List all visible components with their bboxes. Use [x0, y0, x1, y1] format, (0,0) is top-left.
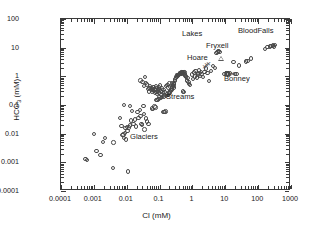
x-axis-title-main: Cl [142, 211, 150, 220]
tick-mark [61, 116, 64, 117]
data-point [142, 127, 146, 131]
data-point [218, 56, 224, 61]
tick-mark [61, 25, 64, 26]
tick-mark [61, 165, 64, 166]
x-tick-label: 1000 [282, 194, 298, 203]
tick-mark [284, 186, 285, 189]
tick-mark [61, 28, 64, 29]
tick-mark [220, 186, 221, 189]
tick-mark [87, 186, 88, 189]
y-axis-title: HCO3 (mM) [12, 45, 22, 155]
tick-mark [61, 169, 64, 170]
tick-mark [61, 142, 64, 143]
tick-mark [286, 169, 289, 170]
y-axis-title-unit: (mM) [12, 79, 21, 98]
tick-mark [183, 186, 184, 189]
tick-mark [286, 138, 289, 139]
tick-mark [286, 164, 289, 165]
tick-mark [61, 78, 64, 79]
data-point [207, 79, 211, 83]
tick-mark [77, 19, 78, 22]
tick-mark [117, 186, 118, 189]
tick-mark [286, 50, 289, 51]
y-tick-label: 0.0001 [0, 186, 19, 195]
tick-mark [218, 19, 219, 22]
tick-mark [61, 182, 64, 183]
plot-area [60, 18, 290, 190]
data-point [143, 75, 147, 79]
tick-mark [286, 19, 287, 22]
data-point [126, 169, 130, 173]
data-point [188, 83, 192, 87]
tick-mark [147, 19, 148, 22]
tick-mark [285, 48, 290, 49]
tick-mark [225, 19, 226, 24]
tick-mark [185, 186, 186, 189]
data-point [273, 43, 277, 47]
tick-mark [117, 19, 118, 22]
tick-mark [61, 19, 62, 24]
tick-mark [215, 19, 216, 22]
tick-mark [61, 149, 64, 150]
tick-mark [81, 186, 82, 189]
annotation-bonney: Bonney [224, 74, 250, 83]
data-point [111, 166, 115, 170]
tick-mark [61, 48, 66, 49]
data-point [101, 140, 105, 144]
tick-mark [127, 185, 128, 190]
tick-mark [286, 106, 289, 107]
tick-mark [61, 85, 64, 86]
tick-mark [286, 63, 289, 64]
data-point [163, 109, 167, 113]
tick-mark [61, 171, 64, 172]
tick-mark [286, 34, 289, 35]
tick-mark [286, 79, 289, 80]
tick-mark [61, 145, 64, 146]
tick-mark [258, 185, 259, 190]
tick-mark [61, 185, 62, 190]
x-tick-label: 10 [220, 194, 228, 203]
tick-mark [61, 34, 64, 35]
x-tick-label: 0.001 [84, 194, 102, 203]
tick-mark [61, 50, 64, 51]
tick-mark [286, 135, 289, 136]
tick-mark [61, 96, 64, 97]
tick-mark [84, 186, 85, 189]
tick-mark [291, 19, 292, 24]
tick-mark [286, 177, 289, 178]
data-point [213, 66, 217, 70]
tick-mark [147, 186, 148, 189]
tick-mark [281, 186, 282, 189]
tick-mark [253, 186, 254, 189]
tick-mark [286, 136, 289, 137]
tick-mark [137, 19, 138, 22]
y-axis-title-subscript: 3 [16, 100, 22, 103]
tick-mark [202, 19, 203, 22]
tick-mark [61, 54, 64, 55]
tick-mark [286, 109, 289, 110]
tick-mark [286, 145, 289, 146]
tick-mark [94, 185, 95, 190]
tick-mark [248, 19, 249, 22]
tick-mark [286, 56, 289, 57]
tick-mark [225, 185, 226, 190]
x-tick-label: 0.1 [154, 194, 164, 203]
tick-mark [286, 39, 289, 40]
tick-mark [281, 19, 282, 22]
data-point [134, 124, 138, 128]
tick-mark [87, 19, 88, 22]
annotation-glaciers: Glaciers [130, 132, 158, 141]
tick-mark [61, 134, 66, 135]
tick-mark [286, 52, 289, 53]
tick-mark [104, 19, 105, 22]
tick-mark [61, 106, 64, 107]
tick-mark [285, 134, 290, 135]
tick-mark [61, 162, 66, 163]
tick-mark [150, 186, 151, 189]
tick-mark [286, 171, 289, 172]
tick-mark [285, 76, 290, 77]
data-point [209, 69, 213, 73]
tick-mark [61, 83, 64, 84]
data-point [103, 136, 107, 140]
tick-mark [61, 105, 66, 106]
